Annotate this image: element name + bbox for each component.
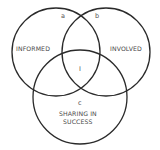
sharing-label-line1: SHARING IN: [59, 110, 97, 117]
region-label-center: I: [79, 66, 81, 73]
involved-circle: [62, 8, 150, 96]
venn-diagram: [0, 0, 160, 150]
sharing-label-line2: SUCCESS: [63, 118, 93, 125]
informed-circle: [12, 8, 100, 96]
region-label-b: b: [95, 13, 99, 20]
informed-label: INFORMED: [16, 45, 50, 52]
involved-label: INVOLVED: [110, 45, 142, 52]
region-label-c: c: [78, 100, 82, 107]
region-label-a: a: [61, 13, 65, 20]
